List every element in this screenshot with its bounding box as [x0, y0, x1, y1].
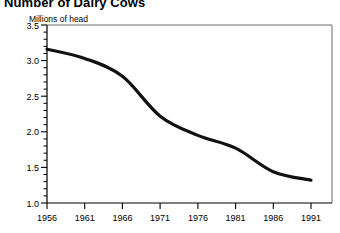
y-axis-major-ticks — [41, 25, 47, 203]
x-tick-label: 1976 — [188, 213, 208, 223]
x-axis-ticks — [47, 203, 311, 209]
y-tick-label: 3.0 — [26, 56, 39, 66]
chart-page: Number of Dairy Cows Millions of head — [0, 0, 340, 233]
y-tick-label: 1.0 — [26, 199, 39, 209]
x-tick-label: 1966 — [112, 213, 132, 223]
x-tick-label: 1971 — [150, 213, 170, 223]
y-axis-tick-labels: 3.5 3.0 2.5 2.0 1.5 1.0 — [26, 21, 39, 209]
x-tick-label: 1956 — [37, 213, 57, 223]
x-tick-label: 1991 — [301, 213, 321, 223]
y-tick-label: 3.5 — [26, 21, 39, 31]
y-tick-label: 2.5 — [26, 92, 39, 102]
x-axis-tick-labels: 1956 1961 1966 1971 1976 1981 1986 1991 — [37, 213, 321, 223]
x-tick-label: 1981 — [226, 213, 246, 223]
x-tick-label: 1986 — [263, 213, 283, 223]
line-chart: 3.5 3.0 2.5 2.0 1.5 1.0 1956 1961 1966 1… — [0, 0, 340, 233]
y-tick-label: 1.5 — [26, 163, 39, 173]
x-tick-label: 1961 — [75, 213, 95, 223]
data-series-line — [47, 49, 311, 180]
y-tick-label: 2.0 — [26, 127, 39, 137]
